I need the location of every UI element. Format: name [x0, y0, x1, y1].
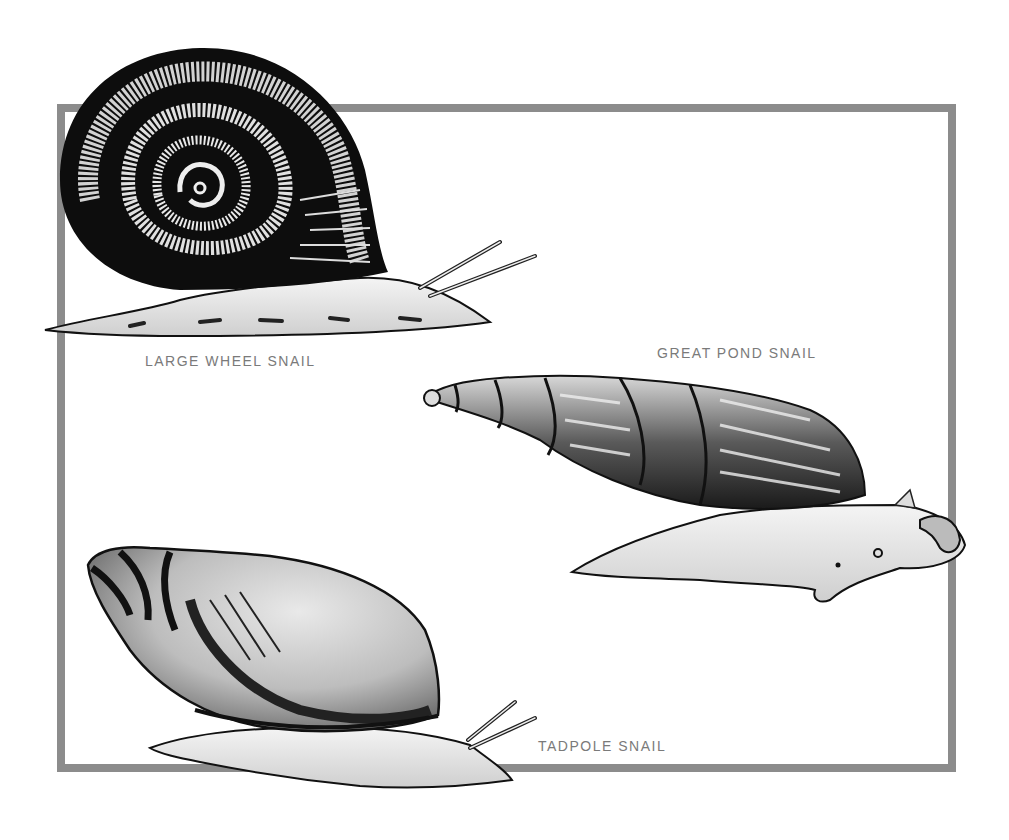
great-pond-snail [424, 376, 965, 602]
great-pond-snail-label: GREAT POND SNAIL [657, 345, 817, 361]
large-wheel-snail [45, 48, 535, 336]
large-wheel-snail-label: LARGE WHEEL SNAIL [145, 353, 315, 369]
snail-illustrations [0, 0, 1009, 840]
tadpole-snail [88, 547, 535, 787]
tadpole-snail-label: TADPOLE SNAIL [538, 738, 666, 754]
